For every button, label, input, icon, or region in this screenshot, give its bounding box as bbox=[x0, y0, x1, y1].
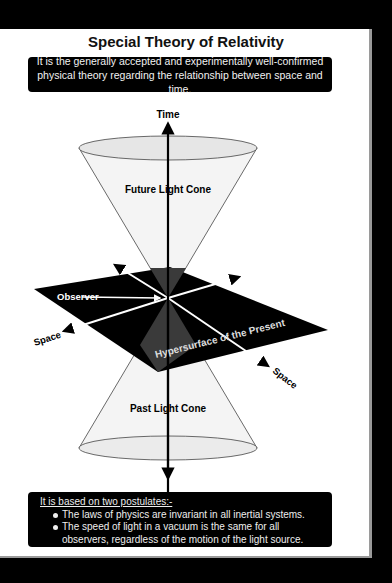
time-label: Time bbox=[156, 109, 180, 120]
infographic-card: Special Theory of Relativity It is the g… bbox=[0, 29, 372, 558]
future-cone-label: Future Light Cone bbox=[125, 184, 212, 195]
observer-label: Observer bbox=[57, 291, 99, 302]
postulates-list: The laws of physics are invariant in all… bbox=[40, 509, 324, 547]
space-right-label: Space bbox=[271, 365, 300, 391]
past-cone-label: Past Light Cone bbox=[130, 403, 207, 414]
space-left-label: Space bbox=[32, 329, 62, 348]
hypersurface-plane bbox=[34, 267, 328, 372]
postulate-item: The speed of light in a vacuum is the sa… bbox=[62, 521, 324, 546]
background-top bbox=[0, 0, 392, 28]
postulates-box: It is based on two postulates:- The laws… bbox=[28, 492, 332, 547]
postulates-heading: It is based on two postulates:- bbox=[40, 496, 324, 509]
postulate-item: The laws of physics are invariant in all… bbox=[62, 509, 324, 522]
light-cone-diagram: Time Future Light Cone Past Light Cone O… bbox=[0, 29, 372, 558]
